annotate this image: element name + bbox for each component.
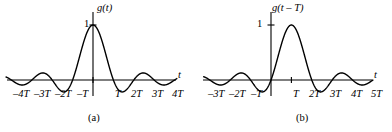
function-label-b: g(t – T) [272, 3, 304, 14]
plot-b-svg [196, 0, 392, 132]
tick-label-b-7: 5T [371, 89, 382, 100]
sinc-function-figure: g(t) 1 t –4T–3T–2T–TT2T3T4T (a) g(t – T)… [0, 0, 392, 132]
sinc-curve-b [204, 25, 373, 92]
plot-panel-a: g(t) 1 t –4T–3T–2T–TT2T3T4T (a) [0, 0, 196, 132]
sinc-curve-a [6, 25, 177, 92]
amplitude-label-a: 1 [84, 19, 89, 30]
tick-label-b-4: 2T [309, 89, 320, 100]
tick-label-b-2: –T [251, 89, 262, 100]
tick-label-b-1: –2T [229, 89, 245, 100]
x-axis-label-b: t [374, 70, 377, 81]
tick-label-a-3: –T [77, 89, 88, 100]
tick-label-a-6: 3T [152, 89, 163, 100]
x-axis-label-a: t [178, 70, 181, 81]
tick-label-b-5: 3T [330, 89, 341, 100]
tick-label-a-7: 4T [172, 89, 183, 100]
tick-label-b-6: 4T [351, 89, 362, 100]
panel-caption-a: (a) [88, 113, 100, 124]
tick-label-a-1: –3T [34, 89, 50, 100]
amplitude-label-b: 1 [257, 19, 262, 30]
tick-label-a-4: T [115, 89, 121, 100]
tick-label-b-3: T [293, 89, 299, 100]
tick-label-a-2: –2T [55, 89, 71, 100]
tick-label-a-0: –4T [13, 89, 29, 100]
function-label-a: g(t) [97, 3, 112, 14]
tick-label-a-5: 2T [131, 89, 142, 100]
panel-caption-b: (b) [296, 113, 308, 124]
plot-panel-b: g(t – T) 1 t –3T–2T–TT2T3T4T5T (b) [196, 0, 392, 132]
tick-label-b-0: –3T [208, 89, 224, 100]
